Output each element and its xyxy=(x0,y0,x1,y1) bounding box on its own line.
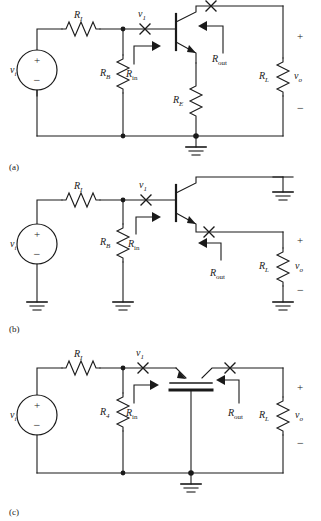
resistor-rl-symbol xyxy=(277,397,289,435)
label-re: RE xyxy=(172,94,184,108)
rout-pointer-line xyxy=(225,380,239,403)
output-minus-sign: − xyxy=(297,436,304,450)
output-minus-sign: − xyxy=(297,283,304,297)
label-rg: R4 xyxy=(99,406,110,420)
rout-pointer-line xyxy=(207,26,223,53)
resistor-rl-symbol xyxy=(277,58,289,96)
label-rl: RL xyxy=(258,409,269,423)
label-vo: vo xyxy=(295,260,303,274)
resistor-rl-symbol xyxy=(277,248,289,286)
circuit-panel-c: + − vi RI R4 v1 Rin Rout RL vo + − (c) xyxy=(0,335,321,521)
label-ri: RI xyxy=(73,348,83,362)
label-rl: RL xyxy=(258,260,269,274)
label-rout: Rout xyxy=(209,267,225,281)
bjt-emitter-arrow xyxy=(187,45,196,53)
label-rl: RL xyxy=(258,70,269,84)
output-plus-sign: + xyxy=(297,30,303,42)
resistor-ri-symbol xyxy=(62,193,100,207)
output-plus-sign: + xyxy=(297,234,303,246)
label-rb: RB xyxy=(99,67,111,81)
circuit-panel-a: + − vi RI RB v1 Rin Rout RE RL vo + − (a… xyxy=(0,0,321,175)
label-vi: vi xyxy=(10,409,16,423)
label-vi: vi xyxy=(10,64,16,78)
resistor-ri-symbol xyxy=(62,361,100,375)
panel-a-schematic: + − vi RI RB v1 Rin Rout RE RL vo + − (a… xyxy=(0,0,321,175)
panel-c-schematic: + − vi RI R4 v1 Rin Rout RL vo + − (c) xyxy=(0,335,321,521)
bjt-collector-lead xyxy=(176,177,283,193)
panel-b-caption: (b) xyxy=(9,324,20,334)
bjt-emitter-arrow xyxy=(187,216,196,224)
rin-arrow-head xyxy=(152,41,161,51)
circuit-panel-b: + − vi RI RB v1 Rin Rout RL vo + − (b) xyxy=(0,172,321,337)
rin-pointer-line xyxy=(134,46,152,64)
output-minus-sign: − xyxy=(297,101,304,115)
source-plus-sign: + xyxy=(34,399,40,411)
panel-c-caption: (c) xyxy=(9,507,19,517)
source-minus-sign: − xyxy=(34,418,41,432)
label-v1: v1 xyxy=(139,179,147,193)
fet-drain-arrow xyxy=(177,371,186,379)
panel-a-caption: (a) xyxy=(9,162,19,172)
rout-arrow-head xyxy=(198,238,207,248)
source-plus-sign: + xyxy=(34,228,40,240)
label-v1: v1 xyxy=(138,8,146,22)
label-ri: RI xyxy=(73,9,83,23)
source-minus-sign: − xyxy=(34,73,41,87)
rout-arrow-head xyxy=(216,375,225,385)
label-vi: vi xyxy=(10,238,16,252)
resistor-ri-symbol xyxy=(62,22,100,36)
label-rb: RB xyxy=(99,236,111,250)
rin-arrow-head xyxy=(150,380,159,390)
label-vo: vo xyxy=(295,409,303,423)
panel-b-schematic: + − vi RI RB v1 Rin Rout RL vo + − (b) xyxy=(0,172,321,337)
rin-pointer-line xyxy=(134,385,150,403)
label-rout: Rout xyxy=(211,53,227,67)
rout-arrow-head xyxy=(198,21,207,31)
label-rout: Rout xyxy=(227,407,243,421)
rin-pointer-line xyxy=(136,217,152,234)
fet-source-lead xyxy=(202,368,283,378)
resistor-re-symbol xyxy=(190,63,202,136)
source-plus-sign: + xyxy=(34,54,40,66)
source-minus-sign: − xyxy=(34,247,41,261)
label-vo: vo xyxy=(294,70,302,84)
label-ri: RI xyxy=(73,180,83,194)
wire-source-to-ri xyxy=(37,200,62,224)
label-v1: v1 xyxy=(136,347,144,361)
rout-pointer-line xyxy=(207,243,221,260)
output-plus-sign: + xyxy=(297,381,303,393)
rin-arrow-head xyxy=(152,212,161,222)
bjt-collector-lead xyxy=(176,6,283,22)
